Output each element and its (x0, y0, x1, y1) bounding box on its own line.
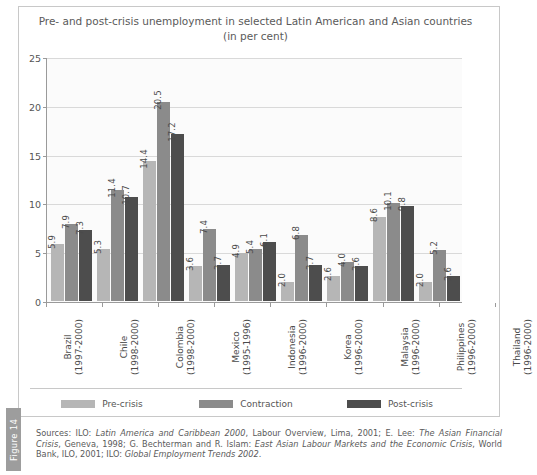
sources-prefix: Sources: ILO: (36, 428, 96, 438)
bar: 2.6 (447, 276, 460, 301)
bar-group: 2.64.03.6 (324, 58, 370, 301)
bar: 7.3 (79, 230, 92, 301)
bar-value-label: 20.5 (153, 90, 163, 110)
bar: 10.7 (125, 197, 138, 301)
bar: 14.4 (143, 161, 156, 301)
country-period: (1998-2000) (130, 319, 141, 375)
bar-value-label: 3.6 (185, 257, 195, 271)
x-axis-tick (214, 303, 215, 307)
bar: 3.6 (189, 266, 202, 301)
x-axis-tick (158, 303, 159, 307)
plot-area: 0510152025 5.97.97.35.311.410.714.420.51… (46, 58, 462, 303)
chart-subtitle: (in per cent) (0, 29, 511, 44)
x-axis-tick (270, 303, 271, 307)
x-axis-label: Brazil(1997-2000) (63, 319, 85, 375)
country-period: (1997-2000) (74, 319, 85, 375)
bar-group: 5.97.97.3 (48, 58, 94, 301)
bar-value-label: 3.6 (351, 257, 361, 271)
country-name: Brazil (63, 334, 73, 359)
bar-group: 5.311.410.7 (94, 58, 140, 301)
x-axis-tick (383, 303, 384, 307)
bar-value-label: 3.7 (213, 256, 223, 270)
bar: 2.0 (281, 282, 294, 301)
bar: 4.9 (235, 253, 248, 301)
x-axis-tick (439, 303, 440, 307)
bar: 3.7 (309, 265, 322, 301)
bar-value-label: 11.4 (107, 178, 117, 198)
y-axis-tick-label: 25 (29, 53, 41, 64)
x-axis-label-cell: Indonesia(1996-2000) (270, 306, 326, 382)
bar-group: 14.420.517.2 (140, 58, 186, 301)
y-axis-tick-label: 15 (29, 150, 41, 161)
y-axis-tick-label: 5 (35, 248, 41, 259)
y-axis-tick (43, 253, 47, 254)
x-axis-label-cell: Malaysia(1996-2000) (383, 306, 439, 382)
x-axis-label-cell: Korea(1996-2000) (326, 306, 382, 382)
figure-number-label: Figure 14 (9, 418, 19, 460)
x-axis-label-cell: Mexico(1995-1996) (214, 306, 270, 382)
x-axis-tick (326, 303, 327, 307)
bar-value-label: 6.8 (291, 226, 301, 240)
country-period: (1996-2000) (411, 319, 422, 375)
bar: 10.1 (387, 203, 400, 301)
bar-value-label: 10.7 (121, 185, 131, 205)
bar-value-label: 7.9 (61, 215, 71, 229)
country-name: Korea (344, 334, 354, 360)
bar-value-label: 2.6 (443, 267, 453, 281)
bar: 17.2 (171, 134, 184, 301)
bar-value-label: 10.1 (383, 191, 393, 211)
x-axis-label-cell: Colombia(1998-2000) (158, 306, 214, 382)
bar: 2.0 (419, 282, 432, 301)
bar: 8.6 (373, 217, 386, 301)
y-axis-tick (43, 204, 47, 205)
bar-group: 4.95.46.1 (232, 58, 278, 301)
figure-number-tab: Figure 14 (6, 408, 21, 471)
bar-value-label: 14.4 (139, 149, 149, 169)
x-axis-label-cell: Philippines(1996-2000) (439, 306, 495, 382)
bar-value-label: 7.4 (199, 220, 209, 234)
bar-value-label: 5.2 (429, 241, 439, 255)
bar: 5.3 (97, 249, 110, 301)
country-name: Thailand (512, 328, 522, 367)
bar: 11.4 (111, 190, 124, 301)
legend-swatch (61, 400, 95, 408)
y-axis-tick-label: 10 (29, 199, 41, 210)
country-period: (1996-2000) (467, 319, 478, 375)
country-name: Malaysia (400, 327, 410, 366)
country-name: Indonesia (287, 325, 297, 369)
country-period: (1996-2000) (355, 319, 366, 375)
bar-group: 2.06.83.7 (278, 58, 324, 301)
country-name: Philippines (456, 323, 466, 372)
legend-item: Contraction (174, 399, 318, 409)
legend-label: Post-crisis (388, 399, 433, 409)
y-axis-tick (43, 107, 47, 108)
bar-value-label: 5.3 (93, 240, 103, 254)
source-title-4: Global Employment Trends 2002 (125, 449, 259, 459)
x-axis-label: Korea(1996-2000) (344, 319, 366, 375)
bar: 5.4 (249, 249, 262, 301)
bar-value-label: 9.8 (397, 197, 407, 211)
legend-label: Pre-crisis (102, 399, 143, 409)
bar: 5.9 (51, 244, 64, 301)
legend-item: Pre-crisis (30, 399, 174, 409)
page-title: Pre- and post-crisis unemployment in sel… (0, 14, 511, 44)
bar-value-label: 17.2 (167, 122, 177, 142)
y-axis-tick (43, 156, 47, 157)
bar-value-label: 5.9 (47, 235, 57, 249)
x-axis-label-cell: Thailand(1996-2000) (495, 306, 537, 382)
bar-value-label: 3.7 (305, 256, 315, 270)
bar-value-label: 4.0 (337, 253, 347, 267)
bar: 2.6 (327, 276, 340, 301)
legend-swatch (347, 400, 381, 408)
bar-value-label: 8.6 (369, 208, 379, 222)
x-axis-tick (102, 303, 103, 307)
plot-wrapper: 0510152025 5.97.97.35.311.410.714.420.51… (30, 58, 462, 303)
x-axis-labels: Brazil(1997-2000)Chile(1998-2000)Colombi… (46, 306, 462, 382)
x-axis-label-cell: Chile(1998-2000) (102, 306, 158, 382)
country-name: Colombia (175, 326, 185, 368)
bar: 7.9 (65, 224, 78, 301)
legend-swatch (199, 400, 233, 408)
x-axis-label: Philippines(1996-2000) (456, 319, 478, 375)
y-axis-tick (43, 58, 47, 59)
